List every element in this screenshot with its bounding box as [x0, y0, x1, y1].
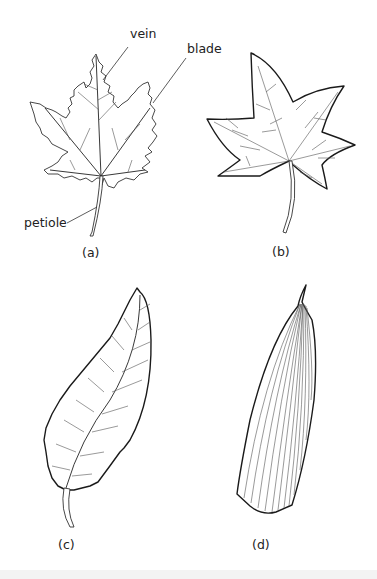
label-petiole: petiole	[24, 217, 67, 230]
bottom-strip	[0, 570, 377, 579]
label-vein: vein	[130, 28, 156, 41]
label-blade: blade	[187, 43, 222, 56]
leaf-illustrations	[0, 0, 377, 579]
leaf-c-elliptic	[44, 288, 151, 527]
caption-c: (c)	[58, 539, 75, 552]
caption-d: (d)	[252, 539, 270, 552]
leaf-types-figure: vein blade petiole (a) (b) (c) (d)	[0, 0, 377, 579]
caption-a: (a)	[82, 247, 99, 260]
petiole-leader-line	[67, 207, 97, 223]
leaf-d-parallel	[237, 285, 316, 513]
caption-b: (b)	[272, 246, 290, 259]
vein-leader-line	[103, 47, 128, 80]
blade-leader-line	[153, 58, 186, 103]
leaf-b-star	[207, 53, 355, 233]
